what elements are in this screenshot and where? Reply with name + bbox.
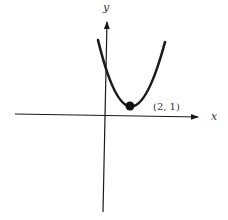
x-axis-label: x: [211, 110, 218, 123]
parabola-figure: (2, 1) x y: [0, 0, 228, 220]
vertex-point: [126, 102, 135, 111]
parabola-curve: [98, 40, 165, 107]
x-axis: [15, 114, 198, 117]
vertex-label: (2, 1): [153, 101, 180, 112]
y-axis-label: y: [102, 1, 110, 14]
y-axis: [103, 22, 107, 212]
